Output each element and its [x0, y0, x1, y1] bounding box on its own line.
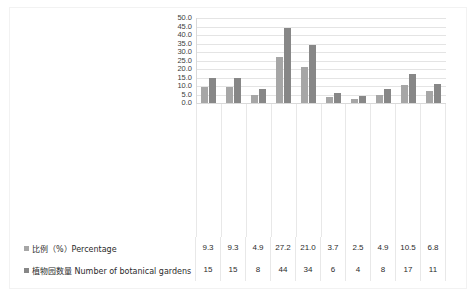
table-cell-value: 6.8	[421, 237, 446, 259]
category-cell: 园林部门Landscaping Department	[297, 104, 322, 237]
table-cell-value: 4.9	[246, 237, 271, 259]
category-cell: 港澳台Hong Kong, Macao and Taiwan	[396, 104, 421, 237]
y-axis-tick-label: 45.0	[177, 23, 192, 31]
bar-column	[246, 18, 271, 103]
legend-swatch-icon	[24, 246, 29, 251]
y-axis-tick-label: 50.0	[177, 14, 192, 22]
y-axis-tick-label: 15.0	[177, 74, 192, 82]
table-cell-value: 8	[246, 259, 271, 281]
category-cell: 科技部门Sci-Tech Department	[371, 104, 396, 237]
table-cell-value: 4.9	[371, 237, 396, 259]
bar-count[interactable]	[434, 84, 441, 103]
bar-percentage[interactable]	[426, 91, 433, 103]
legend-item-count[interactable]: 植物园数量 Number of botanical gardens	[20, 259, 196, 281]
table-cell-value: 15	[221, 259, 246, 281]
bar-column	[296, 18, 321, 103]
category-cell: 企业/其他Enterprises/others	[421, 104, 446, 237]
bar-count[interactable]	[234, 78, 241, 104]
y-axis-tick-label: 20.0	[177, 65, 192, 73]
legend-label: 植物园数量 Number of botanical gardens	[32, 265, 191, 276]
y-axis-tick-label: 5.0	[182, 91, 192, 99]
bar-column	[196, 18, 221, 103]
y-axis-tick-label: 30.0	[177, 48, 192, 56]
table-cell-value: 44	[271, 259, 296, 281]
table-cell-value: 2.5	[346, 237, 371, 259]
bar-column	[271, 18, 296, 103]
y-axis-tick-label: 35.0	[177, 40, 192, 48]
bar-count[interactable]	[284, 28, 291, 103]
plot-area	[196, 18, 446, 103]
legend-swatch-icon	[24, 268, 29, 273]
table-cell-value: 27.2	[271, 237, 296, 259]
y-axis-tick-label: 25.0	[177, 57, 192, 65]
table-cell-value: 9.3	[196, 237, 221, 259]
category-cell: 农业部门Agricultural Department	[322, 104, 347, 237]
table-cell-value: 34	[296, 259, 321, 281]
bar-percentage[interactable]	[226, 87, 233, 103]
category-cell: 林业部门Forest Department	[272, 104, 297, 237]
table-cell-value: 6	[321, 259, 346, 281]
bar-percentage[interactable]	[276, 57, 283, 103]
bar-column	[346, 18, 371, 103]
bar-column	[396, 18, 421, 103]
bar-count[interactable]	[309, 45, 316, 103]
table-row: 植物园数量 Number of botanical gardens 151584…	[20, 259, 446, 281]
data-table: 比例（%）Percentage 9.39.34.927.221.03.72.54…	[20, 237, 446, 281]
bar-percentage[interactable]	[376, 95, 383, 103]
bar-group	[196, 18, 446, 103]
bar-count[interactable]	[384, 89, 391, 103]
legend-label: 比例（%）Percentage	[32, 243, 117, 254]
table-cell-value: 17	[396, 259, 421, 281]
table-cell-value: 3.7	[321, 237, 346, 259]
y-axis-tick-label: 40.0	[177, 31, 192, 39]
table-cell-value: 9.3	[221, 237, 246, 259]
y-axis-tick-label: 0.0	[182, 99, 192, 107]
bar-column	[221, 18, 246, 103]
chart-figure: 50.045.040.035.030.025.020.015.010.05.00…	[0, 0, 475, 297]
table-cell-value: 4	[346, 259, 371, 281]
bar-percentage[interactable]	[251, 95, 258, 103]
bar-count[interactable]	[334, 93, 341, 103]
bar-column	[321, 18, 346, 103]
bar-count[interactable]	[259, 89, 266, 103]
category-cell: 住房与建设部门Housing/Urban-Rural Department	[247, 104, 272, 237]
bar-percentage[interactable]	[401, 85, 408, 103]
table-cell-value: 15	[196, 259, 221, 281]
table-cell-value: 10.5	[396, 237, 421, 259]
category-cell: 医药部门Medical/Medicinal Department	[346, 104, 371, 237]
bar-percentage[interactable]	[301, 67, 308, 103]
bar-count[interactable]	[359, 96, 366, 103]
table-cell-value: 8	[371, 259, 396, 281]
y-axis: 50.045.040.035.030.025.020.015.010.05.00…	[160, 13, 194, 108]
bar-count[interactable]	[409, 74, 416, 103]
bar-percentage[interactable]	[201, 87, 208, 103]
table-cell-value: 21.0	[296, 237, 321, 259]
bar-column	[421, 18, 446, 103]
legend-item-percentage[interactable]: 比例（%）Percentage	[20, 237, 196, 259]
category-cell: 中国科学院CAS	[196, 104, 222, 237]
table-cell-value: 11	[421, 259, 446, 281]
bar-count[interactable]	[209, 78, 216, 104]
y-axis-tick-label: 10.0	[177, 82, 192, 90]
category-cell: 教育部门Education Department	[222, 104, 247, 237]
x-axis-category-labels: 中国科学院CAS教育部门Education Department住房与建设部门H…	[196, 103, 446, 237]
table-row: 比例（%）Percentage 9.39.34.927.221.03.72.54…	[20, 237, 446, 259]
bar-column	[371, 18, 396, 103]
